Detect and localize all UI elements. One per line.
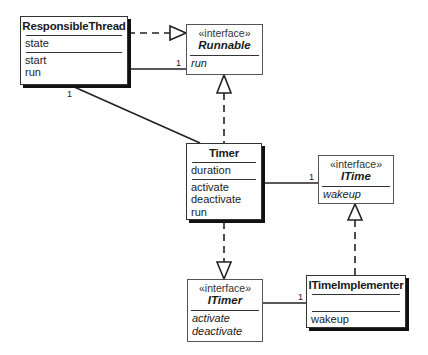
operation: activate	[192, 312, 258, 325]
stereotype-label: «interface»	[187, 25, 262, 39]
multiplicity-label: 1	[298, 292, 303, 302]
realization-arrowhead-icon	[217, 75, 231, 93]
operations-section: start run	[21, 53, 127, 81]
class-name: Timer	[187, 144, 261, 160]
operations-section: wakeup	[307, 312, 405, 328]
realization-arrowhead-icon	[217, 262, 231, 279]
operation: activate	[191, 181, 257, 194]
realization-arrowhead-icon	[348, 204, 362, 220]
operations-section: activate deactivate	[188, 311, 262, 339]
interface-name: Runnable	[187, 39, 262, 52]
attributes-section: state	[21, 36, 127, 52]
class-timer[interactable]: Timer duration activate deactivate run	[186, 143, 262, 220]
interface-name: ITime	[319, 170, 393, 183]
operation: start	[25, 54, 123, 67]
interface-name: ITimer	[188, 294, 262, 307]
operation: run	[25, 66, 123, 79]
operations-section: run	[187, 56, 262, 72]
attribute: duration	[191, 164, 257, 177]
operation: deactivate	[192, 325, 258, 338]
association-timer-rt	[72, 86, 200, 143]
operation: wakeup	[311, 313, 401, 326]
operation: run	[191, 206, 257, 219]
multiplicity-label: 1	[67, 89, 72, 99]
operation: wakeup	[323, 188, 389, 201]
operations-section: activate deactivate run	[187, 180, 261, 221]
multiplicity-label: 1	[176, 58, 181, 68]
class-name: ResponsibleThread	[21, 17, 127, 33]
class-itime-implementer[interactable]: ITimeImplementer wakeup	[306, 275, 406, 328]
attributes-section	[307, 295, 405, 311]
interface-runnable[interactable]: «interface» Runnable run	[186, 24, 263, 75]
stereotype-label: «interface»	[319, 156, 393, 170]
attribute: state	[25, 37, 123, 50]
interface-itimer[interactable]: «interface» ITimer activate deactivate	[187, 279, 263, 342]
attributes-section: duration	[187, 163, 261, 179]
interface-itime[interactable]: «interface» ITime wakeup	[318, 155, 394, 204]
multiplicity-label: 1	[309, 172, 314, 182]
stereotype-label: «interface»	[188, 280, 262, 294]
operations-section: wakeup	[319, 187, 393, 203]
class-responsible-thread[interactable]: ResponsibleThread state start run	[20, 16, 128, 85]
realization-arrowhead-icon	[170, 26, 186, 40]
uml-class-diagram: 1 1 1 1 ResponsibleThread state start ru…	[0, 0, 428, 355]
operation: run	[191, 57, 258, 70]
class-name: ITimeImplementer	[307, 276, 405, 292]
operation: deactivate	[191, 193, 257, 206]
